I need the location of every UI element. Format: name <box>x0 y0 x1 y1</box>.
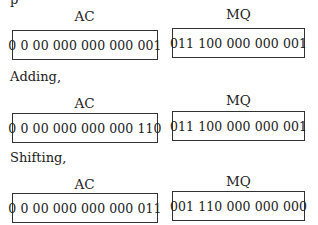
step-label-shifting: Shifting, <box>10 150 66 165</box>
mq-heading: MQ <box>172 173 305 189</box>
ac-register: 0 0 00 000 000 000 110 <box>12 113 158 143</box>
ac-heading: AC <box>12 176 157 192</box>
ac-heading: AC <box>12 8 157 24</box>
mq-heading: MQ <box>172 92 305 108</box>
step-label-adding: Adding, <box>10 69 61 84</box>
ac-heading: AC <box>12 95 157 111</box>
mq-heading: MQ <box>172 6 305 22</box>
mq-register: 011 100 000 000 001 <box>172 28 305 58</box>
ac-register: 0 0 00 000 000 000 011 <box>12 193 158 223</box>
mq-register: 011 100 000 000 001 <box>172 111 305 141</box>
ac-register: 0 0 00 000 000 000 001 <box>12 30 158 60</box>
mq-register: 001 110 000 000 000 <box>172 191 305 221</box>
cut-off-text: p <box>10 0 18 7</box>
